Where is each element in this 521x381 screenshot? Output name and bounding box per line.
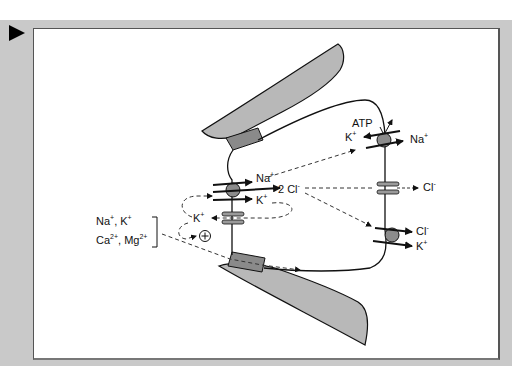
paracellular-line-2: Ca2+, Mg2+ bbox=[96, 233, 147, 246]
lumen-positive-icon bbox=[200, 231, 211, 242]
atp-tick bbox=[380, 127, 383, 133]
atp-arrow bbox=[385, 120, 392, 133]
k-loop-lower bbox=[179, 223, 196, 239]
kcc-k-label: K+ bbox=[416, 239, 427, 252]
kcc-cl-label: Cl- bbox=[416, 224, 429, 237]
na-to-pump-path bbox=[268, 150, 355, 177]
lower-neighbor-cell bbox=[219, 263, 368, 345]
cl-to-kcc-path bbox=[305, 193, 371, 226]
pump-k-label: K+ bbox=[345, 130, 356, 143]
nkcc-k-label: K+ bbox=[256, 193, 267, 206]
upper-neighbor-cell bbox=[202, 44, 344, 138]
nkcc-na-label: Na+ bbox=[256, 171, 274, 184]
nkcc-k-arrow bbox=[213, 199, 252, 200]
nkcc-cl-arrow bbox=[213, 188, 280, 192]
paracellular-bracket bbox=[152, 217, 157, 247]
cl-channel bbox=[377, 182, 399, 194]
paracellular-line-1: Na+, K+ bbox=[96, 214, 132, 227]
ion-transport-diagram: Na+ 2 Cl- K+ K+ Na+, K+ Ca2+, Mg2+ ATP K… bbox=[0, 0, 521, 381]
pump-na-label: Na+ bbox=[410, 132, 428, 145]
channel-cl-label: Cl- bbox=[423, 180, 436, 193]
nkcc-cl-label: 2 Cl- bbox=[278, 182, 301, 195]
k-recycle-label: K+ bbox=[193, 211, 204, 224]
atp-label: ATP bbox=[352, 117, 373, 129]
